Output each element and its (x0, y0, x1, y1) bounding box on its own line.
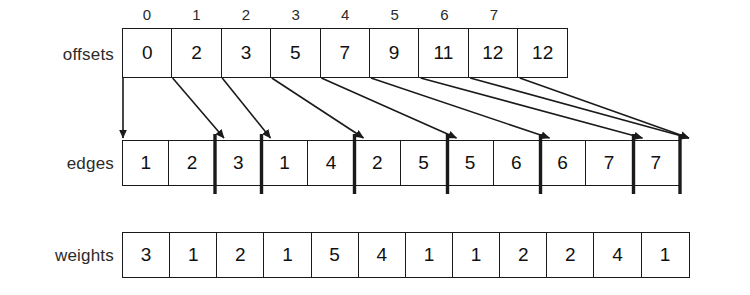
offsets-index-axis: 01234567 (122, 6, 519, 26)
edges-cell: 6 (494, 141, 540, 185)
weights-cell: 1 (406, 233, 453, 277)
offsets-index-tick: 5 (370, 6, 420, 26)
offsets-cell: 11 (419, 29, 468, 77)
weights-cell: 2 (547, 233, 594, 277)
offset-pointer-arrow (371, 78, 550, 138)
weights-array: 312154112241 (122, 232, 690, 278)
offsets-index-tick: 1 (172, 6, 222, 26)
offsets-cell: 5 (271, 29, 320, 77)
weights-cell: 5 (312, 233, 359, 277)
edges-cell: 4 (308, 141, 354, 185)
edges-cell: 2 (169, 141, 215, 185)
weights-cell: 2 (217, 233, 264, 277)
offset-pointer-arrow (222, 78, 270, 138)
offset-pointer-arrow (272, 78, 364, 138)
offsets-cell: 0 (123, 29, 172, 77)
weights-cell: 1 (642, 233, 689, 277)
offset-pointer-arrow (321, 78, 456, 138)
offsets-index-tick: 7 (469, 6, 519, 26)
offsets-cell: 12 (469, 29, 518, 77)
weights-row-label: weights (8, 246, 114, 266)
offsets-cell: 9 (370, 29, 419, 77)
offsets-cell: 7 (321, 29, 370, 77)
edges-cell: 3 (216, 141, 262, 185)
csr-array-diagram: 01234567 offsets 023579111212 edges 1231… (0, 0, 750, 295)
edges-array: 123142556677 (122, 140, 680, 186)
offsets-index-tick: 0 (122, 6, 172, 26)
weights-cell: 1 (264, 233, 311, 277)
offset-pointer-arrow (520, 78, 689, 138)
offsets-row-label: offsets (8, 45, 114, 65)
offset-pointer-arrow (421, 78, 643, 138)
edges-cell: 5 (447, 141, 493, 185)
edges-cell: 2 (355, 141, 401, 185)
edges-cell: 5 (401, 141, 447, 185)
weights-cell: 1 (170, 233, 217, 277)
weights-cell: 4 (594, 233, 641, 277)
offsets-cell: 12 (518, 29, 567, 77)
weights-cell: 3 (123, 233, 170, 277)
edges-cell: 6 (540, 141, 586, 185)
offsets-cell: 2 (172, 29, 221, 77)
weights-cell: 1 (453, 233, 500, 277)
edges-cell: 1 (262, 141, 308, 185)
edges-cell: 1 (123, 141, 169, 185)
edges-row-label: edges (8, 154, 114, 174)
offsets-index-tick: 2 (221, 6, 271, 26)
weights-cell: 2 (500, 233, 547, 277)
offset-pointer-arrow (173, 78, 224, 138)
offsets-index-tick: 4 (320, 6, 370, 26)
edges-cell: 7 (586, 141, 632, 185)
offsets-index-tick: 6 (420, 6, 470, 26)
offsets-cell: 3 (222, 29, 271, 77)
offsets-index-tick: 3 (271, 6, 321, 26)
offsets-array: 023579111212 (122, 28, 568, 78)
offset-pointer-arrow (470, 78, 689, 138)
edges-cell: 7 (633, 141, 679, 185)
weights-cell: 4 (359, 233, 406, 277)
